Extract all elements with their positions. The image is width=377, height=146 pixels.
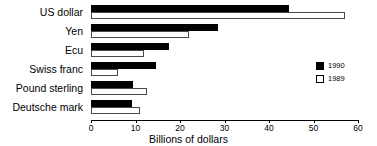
bar-1990-swiss-franc <box>91 62 156 69</box>
x-axis-title: Billions of dollars <box>0 133 377 145</box>
bar-1990-us-dollar <box>91 5 289 12</box>
legend-label-1989: 1989 <box>328 75 345 83</box>
legend-item-1990: 1990 <box>316 60 345 71</box>
bar-1989-yen <box>91 31 189 38</box>
legend-item-1989: 1989 <box>316 73 345 84</box>
bar-1989-us-dollar <box>91 12 345 19</box>
x-tick-label-30: 30 <box>212 124 238 133</box>
x-tick-label-50: 50 <box>301 124 327 133</box>
bar-1990-deutsche-mark <box>91 100 132 107</box>
category-axis-labels: US dollar Yen Ecu Swiss franc Pound ster… <box>0 0 86 120</box>
x-tick-label-10: 10 <box>123 124 149 133</box>
bar-1989-ecu <box>91 50 144 57</box>
bar-1989-pound-sterling <box>91 88 147 95</box>
x-tick-label-0: 0 <box>78 124 104 133</box>
bar-1989-swiss-franc <box>91 69 118 76</box>
category-label-swiss-franc: Swiss franc <box>29 64 83 75</box>
category-label-deutsche-mark: Deutsche mark <box>12 102 83 113</box>
bar-chart: US dollar Yen Ecu Swiss franc Pound ster… <box>0 0 377 146</box>
legend-label-1990: 1990 <box>328 62 345 70</box>
bar-1990-pound-sterling <box>91 81 133 88</box>
legend-swatch-1990-icon <box>316 62 324 70</box>
category-label-us-dollar: US dollar <box>40 7 83 18</box>
bar-1989-deutsche-mark <box>91 107 140 114</box>
category-label-ecu: Ecu <box>65 45 83 56</box>
x-tick-label-60: 60 <box>345 124 371 133</box>
x-tick-label-40: 40 <box>256 124 282 133</box>
legend-swatch-1989-icon <box>316 75 324 83</box>
x-tick-label-20: 20 <box>167 124 193 133</box>
legend: 1990 1989 <box>316 60 345 86</box>
category-label-yen: Yen <box>65 26 83 37</box>
bar-1990-yen <box>91 24 218 31</box>
category-label-pound-sterling: Pound sterling <box>16 83 83 94</box>
bar-1990-ecu <box>91 43 169 50</box>
